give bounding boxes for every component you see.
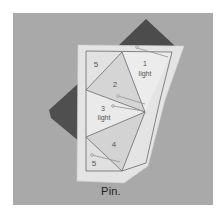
section-label-1: 1 xyxy=(143,60,147,67)
section-label-5-top: 5 xyxy=(94,60,99,69)
figure-caption: Pin. xyxy=(0,185,222,197)
section-label-2: 2 xyxy=(113,80,118,89)
section-label-1-fabric: light xyxy=(139,70,152,78)
section-label-3-fabric: light xyxy=(98,114,111,122)
quilt-pattern-photo: 5 1 light 2 3 light 4 5 xyxy=(0,0,222,215)
section-label-4: 4 xyxy=(112,140,117,149)
section-label-5-bottom: 5 xyxy=(92,159,97,168)
section-label-3: 3 xyxy=(101,105,105,112)
